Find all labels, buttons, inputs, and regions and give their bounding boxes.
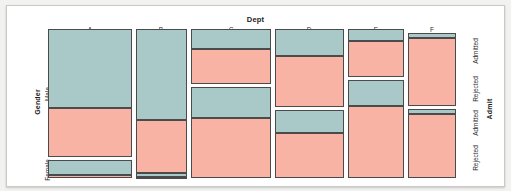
mosaic-tile-d-female-rejected[interactable] [275, 133, 344, 178]
mosaic-tile-f-female-rejected[interactable] [408, 114, 456, 178]
mosaic-tile-c-male-rejected[interactable] [191, 49, 271, 84]
mosaic-tile-e-female-rejected[interactable] [348, 106, 404, 178]
mosaic-plot-area [7, 6, 504, 186]
mosaic-tile-a-male-rejected[interactable] [48, 108, 132, 157]
mosaic-tile-e-male-rejected[interactable] [348, 41, 404, 77]
mosaic-tile-d-female-admitted[interactable] [275, 110, 344, 133]
mosaic-plot-screenshot: Dept Gender Admit A B C D E F Male Femal… [0, 0, 511, 191]
mosaic-tile-a-female-admitted[interactable] [48, 160, 132, 175]
mosaic-tile-d-male-rejected[interactable] [275, 56, 344, 107]
mosaic-tile-b-female-rejected[interactable] [136, 177, 187, 179]
mosaic-tile-e-male-admitted[interactable] [348, 29, 404, 41]
mosaic-tile-e-female-admitted[interactable] [348, 80, 404, 106]
mosaic-tile-d-male-admitted[interactable] [275, 29, 344, 56]
mosaic-tile-b-male-rejected[interactable] [136, 120, 187, 173]
mosaic-tile-b-male-admitted[interactable] [136, 29, 187, 120]
mosaic-tile-a-male-admitted[interactable] [48, 29, 132, 108]
mosaic-tile-c-female-rejected[interactable] [191, 118, 271, 178]
figure-panel: Dept Gender Admit A B C D E F Male Femal… [6, 5, 505, 187]
mosaic-tile-f-male-rejected[interactable] [408, 38, 456, 106]
mosaic-tile-c-female-admitted[interactable] [191, 87, 271, 118]
mosaic-tile-a-female-rejected[interactable] [48, 175, 132, 178]
mosaic-tile-c-male-admitted[interactable] [191, 29, 271, 49]
